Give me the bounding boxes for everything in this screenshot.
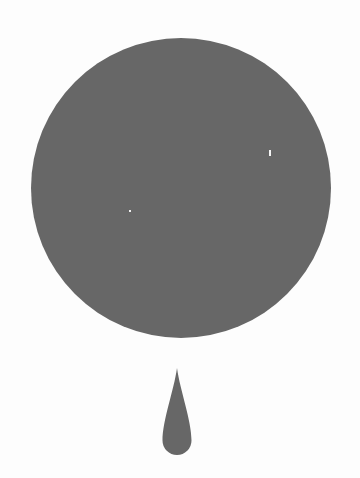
teardrop-shape (163, 368, 192, 455)
large-circle-shape (31, 38, 331, 338)
illustration-canvas (0, 0, 360, 478)
highlight-speck (269, 150, 271, 156)
illustration-svg (0, 0, 360, 478)
highlight-speck (129, 210, 131, 212)
